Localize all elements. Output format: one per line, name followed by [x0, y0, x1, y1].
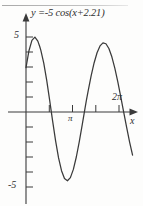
plot-canvas	[0, 0, 143, 206]
x-axis-name-label: x	[130, 116, 134, 126]
y-axis-tick-label-5: 5	[14, 30, 19, 40]
x-axis-tick-label-2pi: 2π	[112, 92, 122, 102]
x-axis-tick-label-pi: π	[68, 114, 73, 123]
math-figure: y =-5 cos(x+2.21) 5 -5 π 2π x	[0, 0, 143, 206]
y-axis-arrowhead	[23, 13, 30, 22]
y-axis-tick-label-minus5: -5	[8, 180, 16, 190]
scan-artifact-line	[2, 5, 128, 6]
function-curve	[26, 37, 133, 181]
function-equation-label: y =-5 cos(x+2.21)	[31, 8, 104, 19]
